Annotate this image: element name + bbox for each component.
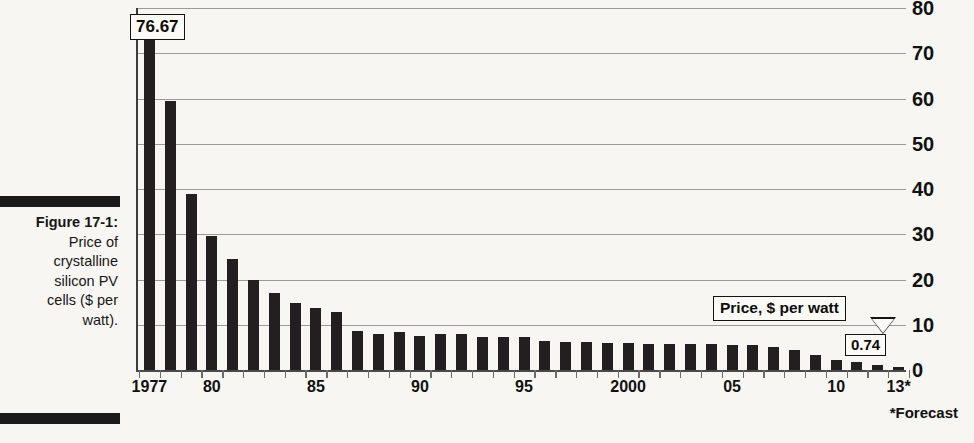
- x-tick: [555, 370, 556, 378]
- bar: [373, 334, 384, 370]
- bar: [539, 341, 550, 370]
- caption-line-2: crystalline: [0, 252, 118, 272]
- x-tick: [638, 370, 639, 378]
- bar: [664, 344, 675, 370]
- bar: [851, 362, 862, 370]
- y-axis-label-40: 40: [912, 179, 934, 199]
- x-tick: [576, 370, 577, 378]
- x-tick: [680, 370, 681, 378]
- min-value-callout: 0.74: [845, 334, 886, 356]
- bar: [165, 101, 176, 370]
- x-tick: [368, 370, 369, 378]
- x-tick: [743, 370, 744, 378]
- x-tick: [222, 370, 223, 378]
- bar: [560, 342, 571, 371]
- bar: [602, 343, 613, 370]
- forecast-footnote: *Forecast: [890, 404, 958, 421]
- x-tick: [285, 370, 286, 378]
- x-axis-label-80: 80: [203, 378, 221, 396]
- x-tick: [888, 370, 889, 378]
- bar: [227, 259, 238, 370]
- x-axis-label-05: 05: [723, 378, 741, 396]
- x-tick: [181, 370, 182, 378]
- x-axis-label-1977: 1977: [132, 378, 168, 396]
- x-axis-label-10: 10: [827, 378, 845, 396]
- y-axis-label-30: 30: [912, 224, 934, 244]
- bar: [789, 350, 800, 370]
- bar: [706, 344, 717, 370]
- bar: [747, 345, 758, 370]
- caption-rule-top: [0, 196, 120, 207]
- bar: [810, 355, 821, 370]
- x-tick: [826, 370, 827, 378]
- bar: [435, 334, 446, 370]
- bar: [831, 360, 842, 370]
- y-axis-label-70: 70: [912, 43, 934, 63]
- caption-line-5: watt).: [0, 311, 118, 331]
- x-tick: [139, 370, 140, 378]
- bar: [727, 345, 738, 370]
- x-tick: [784, 370, 785, 378]
- x-tick: [430, 370, 431, 378]
- y-axis-label-0: 0: [912, 360, 923, 380]
- bar: [331, 312, 342, 370]
- x-tick: [264, 370, 265, 378]
- x-tick: [722, 370, 723, 378]
- x-axis-label-2000: 2000: [610, 378, 646, 396]
- bar: [310, 308, 321, 370]
- x-tick: [618, 370, 619, 378]
- caption-line-1: Price of: [0, 233, 118, 253]
- caption-line-4: cells ($ per: [0, 291, 118, 311]
- bar: [498, 337, 509, 370]
- y-axis-label-80: 80: [912, 0, 934, 18]
- figure-number: Figure 17-1:: [0, 213, 118, 233]
- bar: [248, 280, 259, 371]
- bar: [414, 336, 425, 370]
- figure-caption-text: Figure 17-1: Price of crystalline silico…: [0, 207, 122, 335]
- x-tick: [451, 370, 452, 378]
- bar: [768, 347, 779, 370]
- y-axis-label-10: 10: [912, 315, 934, 335]
- bar: [519, 337, 530, 370]
- y-axis-labels: 01020304050607080: [912, 0, 974, 400]
- bar: [352, 331, 363, 370]
- x-axis-labels: 1977808590952000051013*: [136, 378, 926, 404]
- bar: [643, 344, 654, 370]
- caption-rule-bottom: [0, 413, 120, 424]
- max-value-callout: 76.67: [130, 14, 185, 40]
- x-tick: [305, 370, 306, 378]
- y-axis-label-60: 60: [912, 89, 934, 109]
- x-axis-label-85: 85: [307, 378, 325, 396]
- x-tick: [472, 370, 473, 378]
- x-axis-label-13star: 13*: [887, 378, 911, 396]
- bar: [394, 332, 405, 370]
- x-tick: [659, 370, 660, 378]
- bar: [685, 344, 696, 370]
- x-tick: [493, 370, 494, 378]
- x-tick: [701, 370, 702, 378]
- bar: [623, 343, 634, 370]
- bar: [269, 293, 280, 370]
- y-axis-label-50: 50: [912, 134, 934, 154]
- bar: [456, 334, 467, 370]
- bar: [581, 342, 592, 370]
- series-label-callout: Price, $ per watt: [713, 296, 846, 321]
- x-tick: [160, 370, 161, 378]
- x-tick: [763, 370, 764, 378]
- x-tick: [534, 370, 535, 378]
- x-tick: [347, 370, 348, 378]
- x-tick: [243, 370, 244, 378]
- x-axis-label-90: 90: [411, 378, 429, 396]
- x-tick: [514, 370, 515, 378]
- x-tick: [389, 370, 390, 378]
- bar: [206, 236, 217, 370]
- x-tick: [597, 370, 598, 378]
- bar: [186, 194, 197, 370]
- caption-line-3: silicon PV: [0, 272, 118, 292]
- x-tick: [410, 370, 411, 378]
- x-tick: [867, 370, 868, 378]
- x-tick: [326, 370, 327, 378]
- x-tick: [847, 370, 848, 378]
- y-axis-label-20: 20: [912, 270, 934, 290]
- x-tick: [201, 370, 202, 378]
